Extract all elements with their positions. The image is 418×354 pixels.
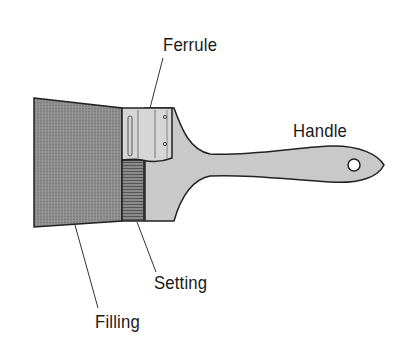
filling-leader-line [75, 225, 98, 308]
ferrule-part [122, 108, 172, 161]
handle-label: Handle [293, 120, 347, 142]
filling-part [34, 98, 122, 227]
setting-part [122, 160, 144, 221]
hang-hole-icon [348, 159, 360, 171]
brush-diagram: Ferrule Handle Setting Filling [0, 0, 418, 354]
setting-label: Setting [154, 272, 207, 294]
ferrule-leader-line [150, 58, 163, 108]
filling-label: Filling [95, 311, 140, 333]
setting-leader-line [137, 222, 156, 272]
handle-part [145, 108, 384, 221]
ferrule-label: Ferrule [163, 34, 217, 56]
